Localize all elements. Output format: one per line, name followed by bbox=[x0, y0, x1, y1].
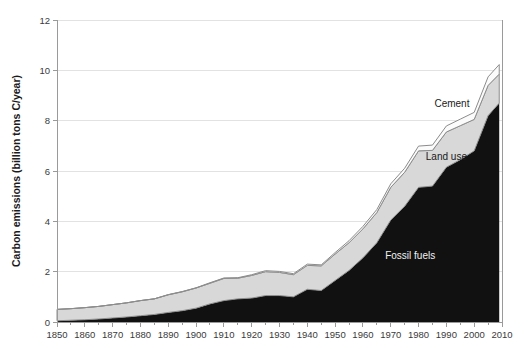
x-tick-label: 1890 bbox=[158, 329, 179, 340]
y-tick-label: 8 bbox=[45, 115, 50, 126]
y-tick-label: 2 bbox=[45, 266, 50, 277]
x-tick-label: 1860 bbox=[74, 329, 95, 340]
y-tick-label: 0 bbox=[45, 317, 50, 328]
x-tick-label: 2000 bbox=[464, 329, 485, 340]
x-tick-label: 1870 bbox=[102, 329, 123, 340]
y-tick-label: 6 bbox=[45, 166, 50, 177]
y-tick-label: 12 bbox=[39, 15, 50, 26]
x-tick-label: 1940 bbox=[297, 329, 318, 340]
x-tick-label: 1910 bbox=[213, 329, 234, 340]
annotation-fossil-fuels: Fossil fuels bbox=[385, 250, 435, 261]
annotation-cement: Cement bbox=[434, 98, 469, 109]
y-axis-title: Carbon emissions (billion tons C/year) bbox=[10, 75, 22, 267]
annotation-land-use: Land use bbox=[426, 151, 468, 162]
x-tick-label: 1980 bbox=[408, 329, 429, 340]
x-tick-label: 1900 bbox=[185, 329, 206, 340]
carbon-emissions-chart: 0246810121850186018701880189019001910192… bbox=[0, 0, 531, 349]
y-tick-label: 10 bbox=[39, 65, 50, 76]
x-tick-label: 1850 bbox=[46, 329, 67, 340]
x-tick-label: 2010 bbox=[491, 329, 512, 340]
y-tick-label: 4 bbox=[45, 216, 50, 227]
x-tick-label: 1880 bbox=[130, 329, 151, 340]
x-tick-label: 1990 bbox=[436, 329, 457, 340]
x-tick-label: 1960 bbox=[352, 329, 373, 340]
chart-canvas: 0246810121850186018701880189019001910192… bbox=[0, 0, 531, 349]
x-tick-label: 1920 bbox=[241, 329, 262, 340]
x-tick-label: 1930 bbox=[269, 329, 290, 340]
x-tick-label: 1950 bbox=[325, 329, 346, 340]
x-tick-label: 1970 bbox=[380, 329, 401, 340]
